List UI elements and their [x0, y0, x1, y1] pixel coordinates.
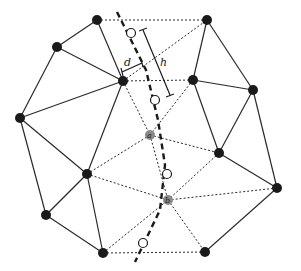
b-label: b — [165, 196, 170, 205]
d-label: d — [124, 56, 131, 69]
h-label: h — [160, 56, 167, 69]
dotted-edges — [87, 20, 277, 253]
a-label: a — [147, 131, 152, 140]
h-measurement — [139, 28, 174, 97]
mesh-diagram: d h — [0, 0, 301, 271]
diagram-svg: d h — [0, 0, 301, 271]
